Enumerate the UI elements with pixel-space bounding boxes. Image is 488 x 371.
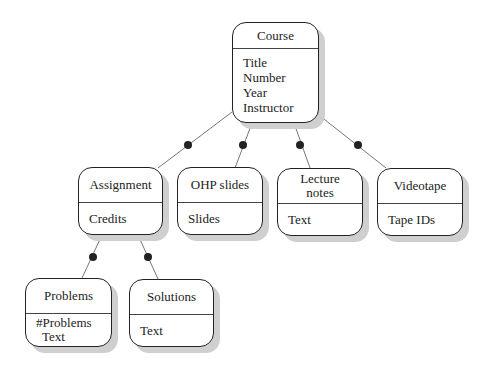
class-videotape: Videotape Tape IDs <box>377 168 463 236</box>
class-course: Course Title Number Year Instructor <box>232 22 319 123</box>
aggregation-dot-icon <box>144 253 152 261</box>
class-diagram: Course Title Number Year Instructor Assi… <box>0 0 488 371</box>
class-name: Videotape <box>378 169 462 204</box>
class-name: Assignment <box>79 168 162 203</box>
class-solutions: Solutions Text <box>129 279 214 347</box>
class-ohp-slides: OHP slides Slides <box>177 167 263 235</box>
class-lecture-notes: Lecture notes Text <box>277 168 363 236</box>
class-assignment: Assignment Credits <box>78 167 163 235</box>
class-attribute: Text <box>140 323 209 338</box>
class-attribute: Credits <box>89 211 158 226</box>
aggregation-dot-icon <box>184 141 192 149</box>
class-name: Course <box>233 23 318 49</box>
class-attribute: Slides <box>188 211 258 226</box>
class-attributes: Title Number Year Instructor <box>243 55 314 115</box>
class-attribute: Tape IDs <box>388 212 458 227</box>
class-name: Problems <box>26 279 111 314</box>
aggregation-dot-icon <box>239 141 247 149</box>
class-attribute: Text <box>288 212 358 227</box>
class-name: OHP slides <box>178 168 262 203</box>
class-problems: Problems #Problems Text <box>25 278 112 347</box>
aggregation-dot-icon <box>89 253 97 261</box>
class-name: Lecture notes <box>278 169 362 204</box>
class-name: Solutions <box>130 280 213 315</box>
class-attributes: #Problems Text <box>36 316 107 344</box>
aggregation-dot-icon <box>354 141 362 149</box>
aggregation-dot-icon <box>296 141 304 149</box>
